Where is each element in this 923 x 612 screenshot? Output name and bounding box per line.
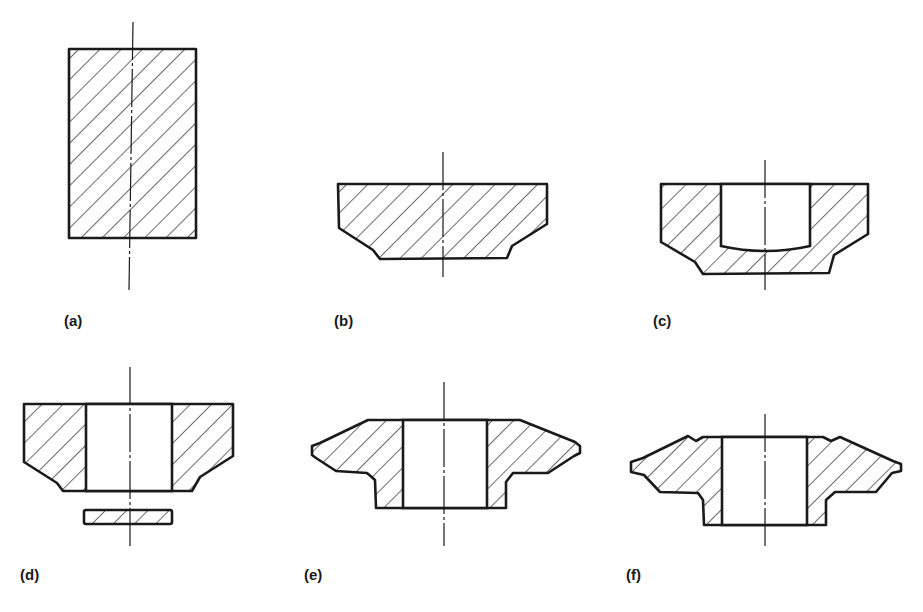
panel-label-d: (d)	[20, 566, 39, 583]
panel-label-c: (c)	[653, 312, 671, 329]
forging-stages-diagram	[0, 0, 923, 612]
panel-f-finished	[631, 414, 901, 547]
panel-d-punched	[24, 367, 233, 547]
panel-e-flanged	[312, 382, 580, 546]
panel-label-a: (a)	[64, 312, 82, 329]
panel-label-f: (f)	[626, 566, 641, 583]
panel-label-e: (e)	[304, 566, 322, 583]
panel-label-b: (b)	[334, 312, 353, 329]
panel-b-upset-blank	[338, 152, 547, 277]
panel-c-pierced-blank	[661, 160, 868, 290]
panel-a-billet	[69, 22, 196, 290]
